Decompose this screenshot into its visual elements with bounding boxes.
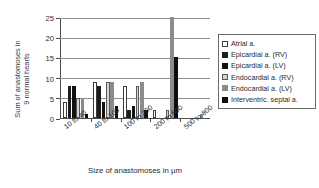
- x-axis-tick-labels: 10 to 4040 to 100100 to 200200 to 500500…: [60, 122, 210, 162]
- y-axis-tick: [56, 38, 60, 39]
- chart-figure: Sum of anastomoses in 9 normal hearts 05…: [0, 0, 319, 188]
- legend: Atrial a.Epicardial a. (RV)Epicardial a.…: [218, 34, 316, 109]
- y-axis-tick-label: 10: [46, 74, 54, 83]
- legend-item: Atrial a.: [222, 38, 313, 49]
- legend-swatch: [222, 52, 228, 58]
- y-axis-tick-label: 15: [46, 54, 54, 63]
- bar: [93, 82, 97, 118]
- legend-swatch: [222, 74, 228, 80]
- legend-label: Epicardial a. (LV): [231, 61, 286, 70]
- legend-swatch: [222, 97, 228, 103]
- y-axis-tick-label: 0: [50, 115, 54, 124]
- bar-group: [91, 18, 121, 118]
- x-axis-title: Size of anastomoses in µm: [60, 166, 210, 175]
- y-axis-tick: [56, 119, 60, 120]
- y-axis-tick: [56, 18, 60, 19]
- y-axis-tick-label: 20: [46, 34, 54, 43]
- legend-label: Interventric. septal a.: [231, 95, 298, 104]
- legend-item: Epicardial a. (LV): [222, 60, 313, 71]
- y-axis-title: Sum of anastomoses in 9 normal hearts: [5, 9, 39, 149]
- legend-item: Endocardial a. (RV): [222, 72, 313, 83]
- legend-item: Interventric. septal a.: [222, 94, 313, 105]
- y-axis-tick-label: 25: [46, 14, 54, 23]
- bar-group: [121, 18, 151, 118]
- y-axis-title-line2: 9 normal hearts: [22, 53, 32, 104]
- bar-groups: [61, 18, 210, 118]
- bar: [153, 110, 157, 118]
- y-axis-tick: [56, 98, 60, 99]
- bar-group: [61, 18, 91, 118]
- legend-swatch: [222, 41, 228, 47]
- legend-label: Atrial a.: [231, 39, 255, 48]
- y-axis-title-line1: Sum of anastomoses in: [13, 40, 23, 117]
- bar-group: [150, 18, 180, 118]
- plot-area: 0510152025: [60, 18, 210, 119]
- legend-swatch: [222, 85, 228, 91]
- bar: [170, 17, 174, 118]
- bar: [63, 102, 67, 118]
- bar: [68, 86, 72, 118]
- legend-item: Endocardial a. (LV): [222, 83, 313, 94]
- bar: [123, 86, 127, 118]
- y-axis-tick: [56, 58, 60, 59]
- bar: [97, 86, 101, 118]
- legend-label: Epicardial a. (RV): [231, 50, 287, 59]
- legend-item: Epicardial a. (RV): [222, 49, 313, 60]
- legend-label: Endocardial a. (LV): [231, 84, 292, 93]
- y-axis-tick: [56, 78, 60, 79]
- legend-swatch: [222, 63, 228, 69]
- bar-group: [180, 18, 210, 118]
- y-axis-tick-label: 5: [50, 94, 54, 103]
- legend-label: Endocardial a. (RV): [231, 73, 294, 82]
